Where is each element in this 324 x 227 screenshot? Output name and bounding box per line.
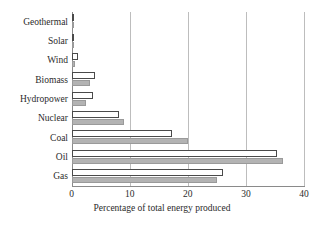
bar-group: [72, 31, 305, 50]
bar-group: [72, 12, 305, 31]
bar-group: [72, 128, 305, 147]
bar-group: [72, 70, 305, 89]
x-tick-30: 30: [241, 188, 251, 200]
gridline-40: [304, 12, 305, 186]
bar-gas-primary: [72, 169, 223, 176]
y-label-wind: Wind: [0, 55, 68, 65]
bar-geothermal-secondary: [72, 22, 74, 28]
y-label-geothermal: Geothermal: [0, 17, 68, 27]
bar-solar-primary: [72, 34, 74, 41]
bar-geothermal-primary: [72, 14, 74, 21]
bar-nuclear-secondary: [72, 119, 124, 125]
x-tick-20: 20: [183, 188, 193, 200]
bar-group: [72, 167, 305, 186]
x-tick-40: 40: [299, 188, 309, 200]
bar-group: [72, 147, 305, 166]
bar-wind-secondary: [72, 61, 75, 67]
y-label-oil: Oil: [0, 152, 68, 162]
bar-hydropower-secondary: [72, 100, 87, 106]
x-tick-0: 0: [69, 188, 74, 200]
bar-biomass-primary: [72, 72, 95, 79]
x-axis-line: [72, 186, 305, 187]
y-label-nuclear: Nuclear: [0, 113, 68, 123]
bar-group: [72, 109, 305, 128]
x-tick-10: 10: [125, 188, 135, 200]
bar-chart: GeothermalSolarWindBiomassHydropowerNucl…: [0, 0, 324, 227]
x-axis-title: Percentage of total energy produced: [0, 202, 324, 214]
bar-group: [72, 89, 305, 108]
y-label-solar: Solar: [0, 36, 68, 46]
bar-hydropower-primary: [72, 92, 94, 99]
bar-wind-primary: [72, 53, 79, 60]
bar-solar-secondary: [72, 42, 74, 48]
bar-biomass-secondary: [72, 80, 91, 86]
bar-nuclear-primary: [72, 111, 120, 118]
y-label-coal: Coal: [0, 133, 68, 143]
bar-coal-secondary: [72, 138, 188, 144]
bar-group: [72, 51, 305, 70]
y-label-gas: Gas: [0, 171, 68, 181]
y-axis-labels: GeothermalSolarWindBiomassHydropowerNucl…: [0, 12, 68, 186]
y-label-hydropower: Hydropower: [0, 94, 68, 104]
bar-oil-secondary: [72, 158, 284, 164]
bar-gas-secondary: [72, 177, 217, 183]
plot-area: [72, 12, 305, 186]
y-label-biomass: Biomass: [0, 75, 68, 85]
x-axis-tick-labels: 010203040: [0, 188, 324, 202]
bar-coal-primary: [72, 130, 173, 137]
bar-oil-primary: [72, 150, 278, 157]
